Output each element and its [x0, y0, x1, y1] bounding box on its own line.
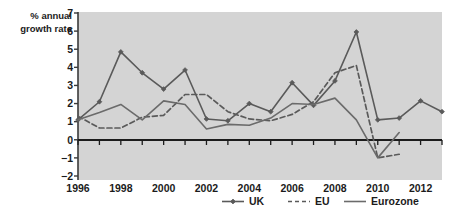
x-tick-label: 2008: [323, 182, 347, 194]
chart-legend: UKEUEurozone: [222, 195, 419, 207]
y-tick-label: 0: [67, 134, 73, 146]
x-tick-label: 2000: [152, 182, 176, 194]
y-axis-title-line2: growth rate: [20, 23, 72, 34]
y-tick-label: 3: [67, 79, 73, 91]
y-tick-label: −1: [61, 152, 73, 164]
x-tick-label: 2004: [238, 182, 262, 194]
x-tick-label: 2012: [409, 182, 433, 194]
line-chart: 76543210−1−2 199619982000200220042006200…: [0, 0, 449, 216]
y-tick-label: −2: [61, 170, 73, 182]
x-tick-label: 1998: [109, 182, 133, 194]
y-tick-label: 5: [67, 43, 73, 55]
chart-container: 76543210−1−2 199619982000200220042006200…: [0, 0, 449, 216]
y-tick-label: 4: [67, 61, 73, 73]
x-tick-label: 2010: [366, 182, 390, 194]
legend-label: Eurozone: [371, 195, 419, 207]
x-axis-tick-labels: 199619982000200220042006200820102012: [66, 182, 432, 194]
x-tick-label: 2002: [195, 182, 219, 194]
y-axis-title-line1: % annual: [30, 10, 72, 21]
y-tick-label: 1: [67, 115, 73, 127]
legend-label: UK: [249, 195, 265, 207]
legend-label: EU: [315, 195, 330, 207]
x-tick-label: 1996: [66, 182, 90, 194]
y-tick-label: 2: [67, 97, 73, 109]
x-tick-label: 2006: [280, 182, 304, 194]
plot-background: [78, 12, 442, 180]
